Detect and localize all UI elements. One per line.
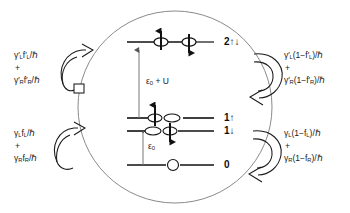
- level-line-1-up: [127, 105, 214, 126]
- rate-term-1: γLfL/ℏ: [14, 127, 37, 140]
- level-line-0: [127, 160, 214, 171]
- rate-plus-sign: +: [14, 140, 37, 152]
- rate-plus-sign: +: [14, 62, 40, 74]
- rate-label-lower-right: γL(1−fL)/ℏ + γR(1−fR)/ℏ: [284, 127, 323, 165]
- hbar-tail: )/ℏ: [312, 50, 323, 60]
- rate-label-upper-left: γ′Lf′L/ℏ + γ′Rf′R/ℏ: [14, 49, 40, 87]
- rate-plus-sign: +: [284, 140, 323, 152]
- one-minus-f: (1−f: [294, 75, 309, 85]
- level-label-2: 2↑↓: [224, 36, 240, 47]
- rate-term-2: γ′R(1−f′R)/ℏ: [284, 74, 325, 87]
- hbar-tail: /ℏ: [29, 153, 37, 163]
- hbar-tail: )/ℏ: [311, 153, 322, 163]
- curved-arrow-out-lower: [249, 131, 281, 182]
- rate-term-2: γ′Rf′R/ℏ: [14, 74, 40, 87]
- energy-label-upper: ε0 + U: [146, 76, 169, 86]
- rate-term-1: γL(1−fL)/ℏ: [284, 127, 323, 140]
- rate-term-2: γRfR/ℏ: [14, 152, 37, 165]
- energy-label-lower: ε0: [148, 141, 155, 151]
- level-label-1-up: 1↑: [224, 112, 235, 123]
- hbar-tail: )/ℏ: [310, 128, 321, 138]
- electron-level2-spin-down: [182, 34, 196, 53]
- rate-term-1: γ′Lf′L/ℏ: [14, 49, 40, 62]
- hbar-tail: /ℏ: [30, 50, 38, 60]
- energy-level-diagram: 2↑↓ 1↑ 1↓ 0 ε0 + U ε0 γ′Lf′L/ℏ + γ′Rf′R/…: [0, 0, 350, 213]
- rate-plus-sign: +: [284, 62, 325, 74]
- one-minus-f: (1−f: [293, 50, 308, 60]
- hbar-tail: )/ℏ: [314, 75, 325, 85]
- rate-label-lower-left: γLfL/ℏ + γRfR/ℏ: [14, 127, 37, 165]
- epsilon-subscript-lower: 0: [152, 145, 155, 151]
- hbar-tail: /ℏ: [27, 128, 35, 138]
- energy-upper-rest: + U: [153, 76, 169, 86]
- rate-label-upper-right: γ′L(1−f′L)/ℏ + γ′R(1−f′R)/ℏ: [284, 49, 325, 87]
- level-line-1-down: [127, 123, 214, 142]
- curved-arrow-out-upper: [250, 54, 282, 105]
- level-label-1-down: 1↓: [224, 125, 235, 136]
- one-minus-f: (1−f: [291, 128, 306, 138]
- electron-level2-spin-up: [154, 31, 168, 50]
- system-ellipse: [78, 11, 272, 203]
- diagram-canvas: [0, 0, 350, 213]
- level-label-0: 0: [224, 159, 230, 170]
- rate-term-1: γ′L(1−f′L)/ℏ: [284, 49, 325, 62]
- rate-term-2: γR(1−fR)/ℏ: [284, 152, 323, 165]
- curved-arrow-in-upper: [61, 44, 93, 93]
- one-minus-f: (1−f: [292, 153, 307, 163]
- hbar-tail: /ℏ: [32, 75, 40, 85]
